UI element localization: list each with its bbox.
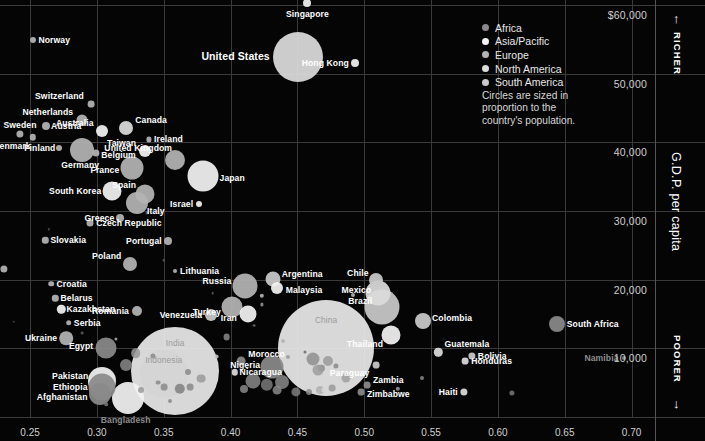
bubble-point-unlabeled[interactable] bbox=[214, 354, 219, 359]
bubble-point-unlabeled[interactable] bbox=[81, 332, 84, 335]
legend-swatch-icon bbox=[482, 79, 489, 86]
bubble-point[interactable] bbox=[549, 316, 565, 332]
bubble-point-unlabeled[interactable] bbox=[329, 385, 336, 392]
bubble-label: Zimbabwe bbox=[367, 390, 410, 399]
bubble-point[interactable] bbox=[373, 361, 380, 368]
right-axis-divider bbox=[655, 0, 656, 441]
legend-item-south-america[interactable]: South America bbox=[482, 75, 602, 89]
bubble-point[interactable] bbox=[66, 320, 72, 326]
bubble-point-unlabeled[interactable] bbox=[223, 334, 230, 341]
bubble-point[interactable] bbox=[358, 389, 365, 396]
bubble-point[interactable] bbox=[96, 337, 117, 358]
bubble-label: Netherlands bbox=[22, 107, 73, 116]
bubble-point-unlabeled[interactable] bbox=[272, 386, 281, 395]
bubble-label: South Korea bbox=[49, 187, 101, 196]
bubble-point-unlabeled[interactable] bbox=[168, 399, 172, 403]
legend-item-north-america[interactable]: North America bbox=[482, 62, 602, 76]
bubble-point-unlabeled[interactable] bbox=[306, 389, 312, 395]
x-axis-tick-label: 0.40 bbox=[221, 427, 240, 438]
bubble-point-unlabeled[interactable] bbox=[120, 359, 132, 371]
bubble-point[interactable] bbox=[30, 37, 36, 43]
legend-swatch-icon bbox=[482, 51, 489, 58]
bubble-point[interactable] bbox=[30, 134, 36, 140]
bubble-point[interactable] bbox=[119, 121, 133, 135]
legend-item-asia-pacific[interactable]: Asia/Pacific bbox=[482, 35, 602, 49]
bubble-point[interactable] bbox=[87, 101, 94, 108]
bubble-point[interactable] bbox=[57, 305, 65, 313]
bubble-point[interactable] bbox=[164, 237, 172, 245]
bubble-point[interactable] bbox=[381, 325, 400, 344]
bubble-label: South Africa bbox=[567, 319, 619, 328]
bubble-point-unlabeled[interactable] bbox=[260, 379, 272, 391]
bubble-point[interactable] bbox=[196, 201, 202, 207]
bubble-point[interactable] bbox=[165, 150, 185, 170]
bubble-point-unlabeled[interactable] bbox=[197, 374, 206, 383]
bubble-point-unlabeled[interactable] bbox=[420, 376, 424, 380]
bubble-point[interactable] bbox=[70, 138, 94, 162]
bubble-point[interactable] bbox=[42, 237, 48, 243]
bubble-point[interactable] bbox=[173, 269, 177, 273]
x-axis-tick-label: 0.70 bbox=[622, 427, 641, 438]
bubble-point[interactable] bbox=[93, 150, 100, 157]
bubble-point[interactable] bbox=[233, 273, 258, 298]
bubble-point[interactable] bbox=[231, 369, 237, 375]
legend-item-europe[interactable]: Europe bbox=[482, 48, 602, 62]
gridline-vertical bbox=[431, 0, 432, 418]
gridline-vertical bbox=[231, 0, 232, 418]
bubble-point[interactable] bbox=[351, 59, 359, 67]
bubble-point[interactable] bbox=[415, 313, 431, 329]
y-axis-title: G.D.P. per capita bbox=[669, 152, 683, 251]
bubble-point-unlabeled[interactable] bbox=[160, 384, 167, 391]
bubble-label: Zambia bbox=[373, 375, 404, 384]
bubble-point-unlabeled[interactable] bbox=[313, 364, 324, 375]
bubble-label: Colombia bbox=[432, 314, 472, 323]
bubble-point[interactable] bbox=[303, 0, 311, 7]
bubble-point[interactable] bbox=[187, 160, 218, 191]
bubble-point[interactable] bbox=[462, 358, 469, 365]
bubble-point[interactable] bbox=[56, 145, 62, 151]
bubble-point-unlabeled[interactable] bbox=[115, 337, 118, 340]
bubble-point-unlabeled[interactable] bbox=[104, 402, 108, 406]
bubble-point-unlabeled[interactable] bbox=[323, 356, 333, 366]
bubble-point[interactable] bbox=[49, 281, 55, 287]
bubble-point-unlabeled[interactable] bbox=[211, 292, 214, 295]
bubble-point[interactable] bbox=[434, 348, 442, 356]
x-axis-tick-label: 0.30 bbox=[87, 427, 106, 438]
bubble-point[interactable] bbox=[460, 388, 467, 395]
bubble-point[interactable] bbox=[96, 125, 108, 137]
x-axis-tick-label: 0.65 bbox=[555, 427, 574, 438]
bubble-point-unlabeled[interactable] bbox=[185, 369, 191, 375]
bubble-point[interactable] bbox=[239, 305, 256, 322]
bubble-point-unlabeled[interactable] bbox=[291, 387, 300, 396]
bubble-point-unlabeled[interactable] bbox=[260, 303, 263, 306]
legend-item-africa[interactable]: Africa bbox=[482, 21, 602, 35]
y-axis-tick-label: 40,000 bbox=[614, 146, 647, 158]
bubble-point-unlabeled[interactable] bbox=[240, 385, 248, 393]
bubble-point-unlabeled[interactable] bbox=[253, 324, 256, 327]
bubble-point[interactable] bbox=[42, 122, 50, 130]
bubble-point-unlabeled[interactable] bbox=[138, 387, 144, 393]
bubble-point[interactable] bbox=[123, 257, 137, 271]
gridline-vertical bbox=[30, 0, 31, 418]
bubble-point[interactable] bbox=[16, 130, 23, 137]
bubble-point-unlabeled[interactable] bbox=[304, 351, 307, 354]
bubble-point-unlabeled[interactable] bbox=[286, 355, 290, 359]
bubble-point-unlabeled[interactable] bbox=[162, 259, 165, 262]
bubble-point-unlabeled[interactable] bbox=[131, 348, 141, 358]
bubble-point-unlabeled[interactable] bbox=[187, 383, 194, 390]
bubble-point[interactable] bbox=[132, 306, 142, 316]
bubble-label: Switzerland bbox=[35, 92, 84, 101]
bubble-point[interactable] bbox=[364, 381, 371, 388]
bubble-point-unlabeled[interactable] bbox=[13, 320, 15, 322]
gridline-horizontal bbox=[0, 5, 705, 6]
bubble-point-unlabeled[interactable] bbox=[260, 294, 264, 298]
bubble-point-unlabeled[interactable] bbox=[156, 380, 161, 385]
bubble-point-unlabeled[interactable] bbox=[509, 390, 514, 395]
bubble-point[interactable] bbox=[52, 295, 58, 301]
bubble-point[interactable] bbox=[0, 266, 7, 273]
bubble-point[interactable] bbox=[136, 185, 155, 204]
bubble-point[interactable] bbox=[271, 282, 283, 294]
bubble-point-unlabeled[interactable] bbox=[281, 339, 285, 343]
bubble-point-unlabeled[interactable] bbox=[48, 228, 50, 230]
bubble-label: Finland bbox=[24, 144, 55, 153]
